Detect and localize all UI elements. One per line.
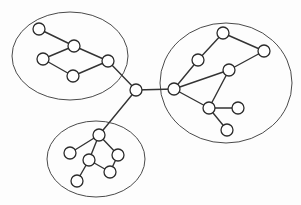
node-layer xyxy=(33,23,270,187)
graph-node-b2[interactable] xyxy=(64,147,76,159)
graph-node-b1[interactable] xyxy=(93,129,105,141)
graph-node-r5[interactable] xyxy=(223,64,235,76)
graph-node-r4[interactable] xyxy=(258,45,270,57)
graph-node-r1[interactable] xyxy=(168,83,180,95)
graph-node-n1[interactable] xyxy=(33,23,45,35)
graph-node-r8[interactable] xyxy=(221,124,233,136)
graph-node-r3[interactable] xyxy=(217,27,229,39)
graph-node-b4[interactable] xyxy=(112,149,124,161)
graph-node-r2[interactable] xyxy=(192,54,204,66)
graph-edge-hub-b1 xyxy=(99,90,136,135)
graph-node-n3[interactable] xyxy=(37,53,49,65)
graph-edge-r3-r4 xyxy=(223,33,264,51)
graph-node-b3[interactable] xyxy=(83,154,95,166)
graph-node-n2[interactable] xyxy=(68,40,80,52)
graph-diagram-canvas xyxy=(0,0,301,205)
graph-node-r6[interactable] xyxy=(203,102,215,114)
graph-svg xyxy=(0,0,301,205)
graph-node-hub[interactable] xyxy=(130,84,142,96)
graph-node-r7[interactable] xyxy=(232,102,244,114)
graph-node-n5[interactable] xyxy=(102,55,114,67)
graph-node-b5[interactable] xyxy=(104,166,116,178)
cluster-boundary-layer xyxy=(12,12,292,197)
graph-node-n4[interactable] xyxy=(67,70,79,82)
graph-node-b6[interactable] xyxy=(71,175,83,187)
